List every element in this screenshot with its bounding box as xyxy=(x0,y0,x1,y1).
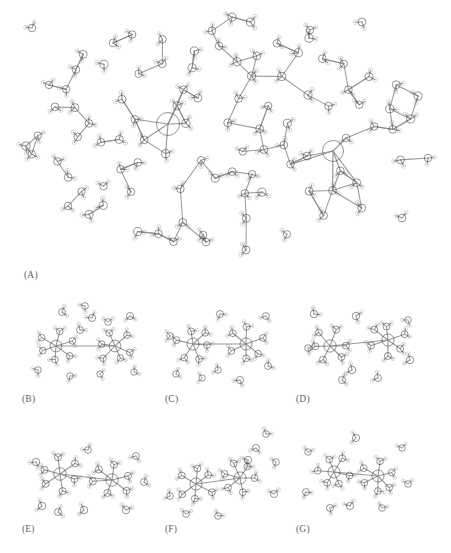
panel-b xyxy=(22,296,146,388)
panel-c-canvas xyxy=(156,296,280,388)
panel-g-label: (G) xyxy=(296,524,310,534)
panel-a-canvas xyxy=(10,6,445,264)
panel-a xyxy=(10,6,445,264)
panel-g xyxy=(290,422,424,522)
molecular-structure-figure: (A) (B) (C) (D) (E) (F) (G) xyxy=(0,0,451,553)
panel-f-label: (F) xyxy=(165,524,177,534)
panel-d-canvas xyxy=(290,296,424,388)
panel-c-label: (C) xyxy=(165,394,178,404)
panel-f-canvas xyxy=(156,422,290,526)
panel-a-label: (A) xyxy=(24,270,38,280)
panel-f xyxy=(156,422,290,526)
panel-b-label: (B) xyxy=(22,394,35,404)
panel-b-canvas xyxy=(22,296,146,388)
panel-d xyxy=(290,296,424,388)
panel-c xyxy=(156,296,280,388)
panel-e xyxy=(22,422,156,522)
panel-e-label: (E) xyxy=(22,524,35,534)
panel-d-label: (D) xyxy=(296,394,310,404)
panel-g-canvas xyxy=(290,422,424,522)
panel-e-canvas xyxy=(22,422,156,522)
